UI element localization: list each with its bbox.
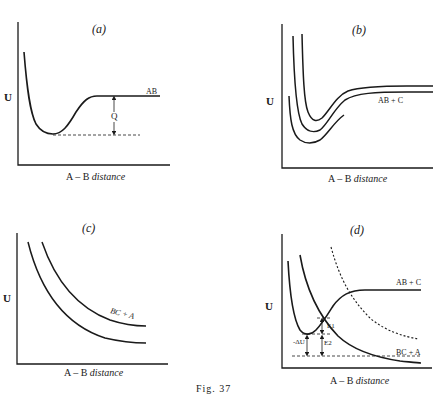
panel-d-x-axis-label: A – B distance <box>330 376 389 386</box>
panel-d-curve-label-bc-a: BC + A <box>396 349 421 357</box>
panel-b-x-axis-prefix: A – B <box>328 173 351 184</box>
panel-c-curve-lower <box>28 242 146 343</box>
panel-d-curve-label-ab-c: AB + C <box>396 279 421 287</box>
panel-b-curve-label-ab-c: AB + C <box>378 97 403 105</box>
panel-a-curve-label-ab: AB <box>146 88 157 96</box>
figure-caption: Fig. 37 <box>196 384 231 394</box>
panel-a-q-label: Q <box>111 112 118 121</box>
panel-a-x-axis-italic: distance <box>92 171 125 182</box>
panel-c-label: (c) <box>82 222 95 234</box>
panel-d-delta-u-label: -ΔU <box>293 339 305 346</box>
panel-a-x-axis-label: A – B distance <box>66 172 125 182</box>
panel-b-x-axis-italic: distance <box>354 173 387 184</box>
panel-b-y-axis-label: U <box>266 96 274 107</box>
panel-b-x-axis-label: A – B distance <box>328 174 387 184</box>
figure-drawing <box>0 0 440 394</box>
panel-c-x-axis-label: A – B distance <box>64 368 123 378</box>
panel-c-y-axis-label: U <box>3 293 11 304</box>
panel-a-curve-ab <box>24 52 160 134</box>
panel-a-x-axis-prefix: A – B <box>66 171 89 182</box>
panel-d-curve-ab-c <box>288 261 421 334</box>
panel-a-label: (a) <box>92 23 106 35</box>
panel-c-axes <box>17 233 168 364</box>
panel-b-label: (b) <box>352 24 366 36</box>
panel-d-curve-bc-a <box>300 255 421 363</box>
panel-d-label: (d) <box>350 224 364 236</box>
panel-b-graphics <box>282 24 433 168</box>
panel-c-x-axis-prefix: A – B <box>64 367 87 378</box>
panel-d-curve-dotted <box>331 247 419 339</box>
panel-c-x-axis-italic: distance <box>90 367 123 378</box>
panel-a-y-axis-label: U <box>4 92 12 103</box>
panel-d-e2-label: E2 <box>324 340 332 347</box>
panel-d-x-axis-prefix: A – B <box>330 375 353 386</box>
panel-d-e1-label: E1 <box>327 323 335 330</box>
panel-d-x-axis-italic: distance <box>356 375 389 386</box>
panel-c-graphics <box>17 233 168 364</box>
panel-b-curve-upper <box>302 34 433 120</box>
panel-d-y-axis-label: U <box>265 301 273 312</box>
panel-b-curve-middle <box>293 36 433 132</box>
